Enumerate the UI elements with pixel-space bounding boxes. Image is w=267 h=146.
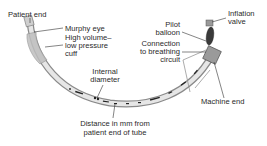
leader-pilot-balloon xyxy=(182,32,206,41)
leader-internal-diameter xyxy=(97,85,103,98)
leader-machine-end xyxy=(214,62,224,98)
label-cuff-3: cuff xyxy=(65,50,77,58)
label-connection-3: circuit xyxy=(130,56,180,64)
label-machine-end: Machine end xyxy=(201,98,244,106)
label-internal-diameter-2: diameter xyxy=(87,76,123,84)
tube-inner xyxy=(30,22,212,104)
inflation-valve xyxy=(206,20,213,26)
label-distance-2: patient end of tube xyxy=(70,129,160,137)
leader-inflation-valve xyxy=(212,18,226,22)
tube-body xyxy=(30,22,212,104)
label-patient-end: Patient end xyxy=(8,11,46,19)
pilot-balloon xyxy=(205,27,215,46)
label-inflation-2: valve xyxy=(228,18,246,26)
leader-murphy-eye xyxy=(34,28,63,32)
label-pilot-2: balloon xyxy=(140,29,180,37)
leader-cuff xyxy=(45,45,63,47)
cuff xyxy=(27,32,47,64)
